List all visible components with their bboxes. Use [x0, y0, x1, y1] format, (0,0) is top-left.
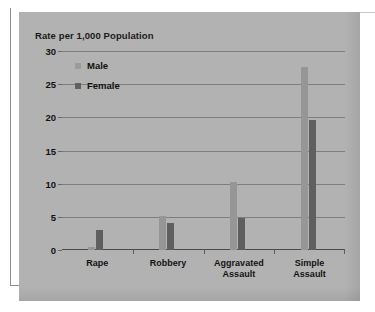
chart-figure-panel: Rate per 1,000 Population 051015202530Ra… [19, 12, 360, 301]
legend-item-female: Female [75, 80, 120, 91]
y-axis-tick-label: 15 [45, 145, 56, 156]
bar-group[interactable] [230, 51, 248, 250]
panel-shading-bottom [19, 287, 360, 301]
x-axis-tick-mark [133, 249, 134, 254]
legend-label-female: Female [87, 80, 120, 91]
bar-male[interactable] [230, 182, 237, 250]
bar-female[interactable] [309, 120, 316, 250]
y-axis-tick-mark [58, 51, 62, 52]
bar-male[interactable] [301, 67, 308, 250]
y-axis-tick-label: 30 [45, 46, 56, 57]
chart-legend: Male Female [75, 60, 120, 100]
y-axis-tick-mark [58, 151, 62, 152]
x-axis-tick-mark [204, 249, 205, 254]
y-axis-tick-label: 5 [51, 211, 56, 222]
y-axis-tick-label: 10 [45, 178, 56, 189]
legend-label-male: Male [87, 60, 108, 71]
page-margin-rule [10, 8, 11, 286]
y-axis-tick-mark [58, 84, 62, 85]
screenshot-root: Rate per 1,000 Population 051015202530Ra… [0, 0, 375, 312]
x-axis-category-label: Robbery [150, 258, 187, 269]
x-axis-category-label: Rape [86, 258, 108, 269]
y-axis-tick-label: 25 [45, 79, 56, 90]
x-axis-category-label: Aggravated Assault [214, 258, 264, 280]
legend-item-male: Male [75, 60, 120, 71]
y-axis-tick-mark [58, 184, 62, 185]
y-axis-tick-label: 20 [45, 112, 56, 123]
y-axis-tick-label: 0 [51, 245, 56, 256]
legend-swatch-icon-male [75, 63, 81, 69]
bar-female[interactable] [238, 218, 245, 250]
panel-shading-right [344, 12, 360, 301]
legend-swatch-icon-female [75, 83, 81, 89]
bar-group[interactable] [159, 51, 177, 250]
bar-female[interactable] [96, 230, 103, 250]
bar-male[interactable] [88, 247, 95, 250]
y-axis-tick-mark [58, 250, 62, 251]
x-axis-category-label: Simple Assault [292, 258, 327, 280]
x-axis-tick-mark [274, 249, 275, 254]
bar-male[interactable] [159, 216, 166, 250]
y-axis-tick-mark [58, 117, 62, 118]
bar-female[interactable] [167, 223, 174, 250]
bar-group[interactable] [301, 51, 319, 250]
y-axis-tick-mark [58, 217, 62, 218]
chart-title: Rate per 1,000 Population [35, 30, 154, 41]
